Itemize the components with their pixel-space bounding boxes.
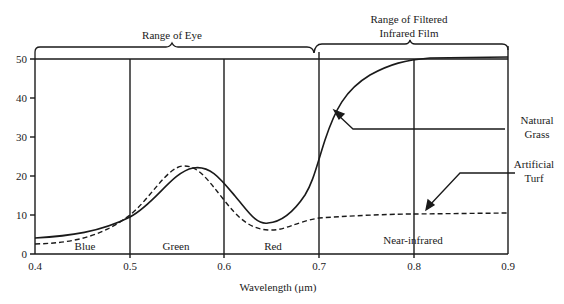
y-tick-20: 20 [16, 170, 28, 182]
y-tick-30: 30 [16, 131, 28, 143]
artificial-turf-curve [35, 166, 508, 244]
y-tick-50: 50 [16, 53, 28, 65]
band-green: Green [163, 240, 190, 252]
grass-callout-arrow [334, 110, 505, 129]
x-tick-0.9: 0.9 [501, 260, 515, 272]
x-tick-0.7: 0.7 [312, 260, 326, 272]
band-nir: Near-infrared [383, 234, 443, 246]
x-tick-0.4: 0.4 [28, 260, 42, 272]
callout-grass-1: Natural [521, 114, 554, 126]
y-tick-10: 10 [16, 209, 28, 221]
y-tick-40: 40 [16, 92, 28, 104]
plot-frame [30, 46, 508, 258]
x-axis-label: Wavelength (μm) [240, 281, 317, 294]
x-tick-0.5: 0.5 [123, 260, 137, 272]
band-blue: Blue [75, 240, 96, 252]
y-tick-0: 0 [22, 248, 28, 260]
brace-label-film-2: Infrared Film [380, 27, 439, 39]
callout-grass-2: Grass [524, 128, 549, 140]
band-red: Red [264, 240, 282, 252]
callout-turf-1: Artificial [514, 158, 554, 170]
x-tick-0.6: 0.6 [217, 260, 231, 272]
reflectance-chart: Range of Eye Range of Filtered Infrared … [0, 0, 564, 304]
brace-label-eye: Range of Eye [142, 29, 202, 41]
brace-range-of-eye [35, 43, 314, 59]
x-tick-0.8: 0.8 [407, 260, 421, 272]
brace-range-of-film [314, 40, 508, 53]
turf-callout-arrow [426, 173, 515, 210]
brace-label-film-1: Range of Filtered [371, 13, 448, 25]
callout-turf-2: Turf [524, 172, 543, 184]
natural-grass-curve [35, 57, 508, 238]
